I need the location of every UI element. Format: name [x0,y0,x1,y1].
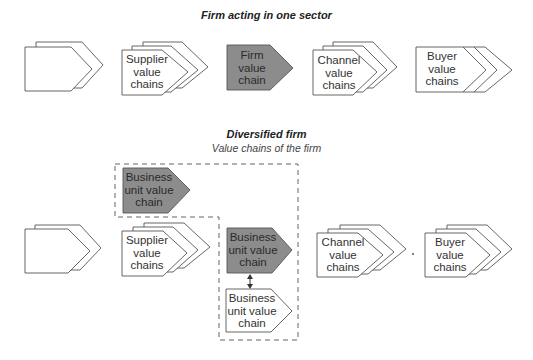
section-one-title: Firm acting in one sector [0,9,533,21]
row2-buyer-label: Buyer value chains [425,236,475,274]
row1-firm-label: Firm value chain [227,49,277,87]
row1-channel-label: Channel value chains [313,54,365,92]
bu-top-label: Business unit value chain [121,171,177,209]
row1-buyer-label: Buyer value chains [416,50,468,88]
bu-connector-arrow [247,274,253,289]
bu-bottom-label: Business unit value chain [224,292,280,330]
stray-dot [412,253,414,255]
section-two-subtitle: Value chains of the firm [0,142,533,154]
row2-channel-label: Channel value chains [317,236,369,274]
row2-unlabeled-chain [25,225,101,273]
row1-unlabeled-chain [25,42,103,91]
section-two-title: Diversified firm [0,128,533,140]
row2-supplier-label: Supplier value chains [122,234,172,272]
bu-middle-label: Business unit value chain [225,231,281,269]
row1-supplier-label: Supplier value chains [122,53,172,91]
